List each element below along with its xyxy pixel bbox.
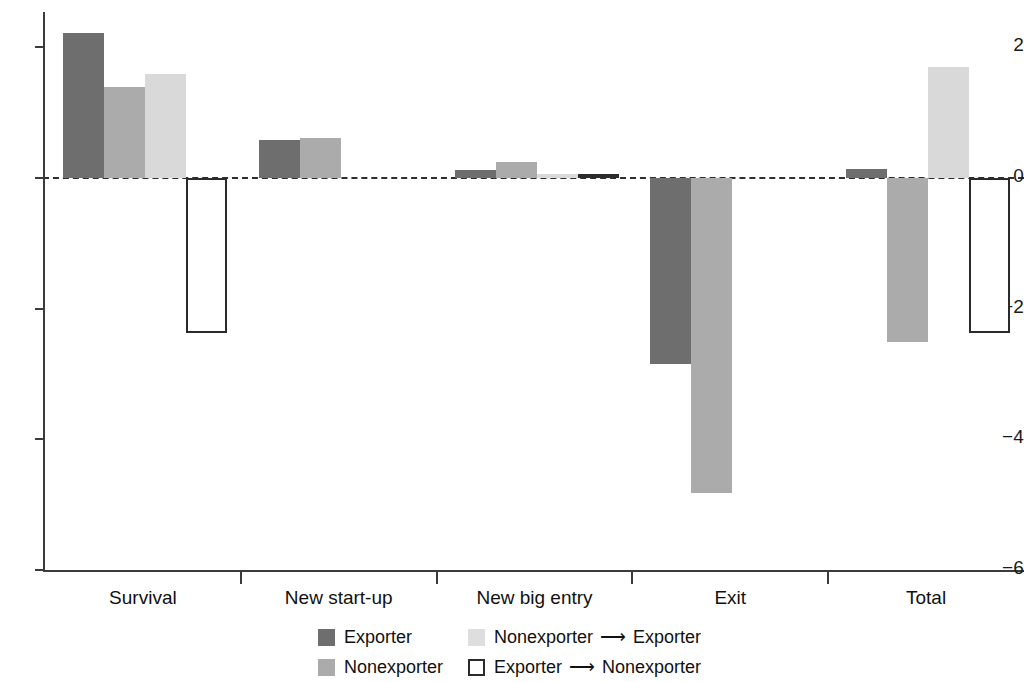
legend-label-exporter-to-nonexporter-right: Nonexporter <box>602 657 701 678</box>
chart-legend: Exporter Nonexporter ⟶ Exporter Nonexpor… <box>318 622 788 682</box>
plot-area: 20−2−4−6 SurvivalNew start-upNew big ent… <box>0 0 1024 682</box>
y-tick-label: −6 <box>990 557 1024 579</box>
legend-label-nonexporter-to-exporter-left: Nonexporter <box>494 627 593 648</box>
legend-swatch-nonexporter-to-exporter-icon <box>468 629 485 646</box>
legend-label-nonexporter-to-exporter-right: Exporter <box>633 627 701 648</box>
legend-swatch-exporter-to-nonexporter-icon <box>468 659 485 676</box>
bar <box>650 178 691 364</box>
bar <box>969 178 1010 333</box>
legend-swatch-exporter-icon <box>318 629 335 646</box>
bar <box>846 169 887 178</box>
legend-swatch-nonexporter-icon <box>318 659 335 676</box>
y-tick-mark <box>35 438 45 440</box>
legend-row-2: Nonexporter Exporter ⟶ Nonexporter <box>318 652 788 682</box>
legend-arrow-icon: ⟶ <box>600 628 626 646</box>
bar <box>104 87 145 178</box>
y-tick-label: −4 <box>990 426 1024 448</box>
category-label: New big entry <box>437 587 633 609</box>
category-label: Exit <box>632 587 828 609</box>
category-separator-tick <box>631 572 633 584</box>
legend-row-1: Exporter Nonexporter ⟶ Exporter <box>318 622 788 652</box>
bar <box>691 178 732 493</box>
bar <box>259 140 300 178</box>
bar <box>63 33 104 178</box>
bar-chart-figure: 20−2−4−6 SurvivalNew start-upNew big ent… <box>0 0 1024 682</box>
bar <box>186 178 227 333</box>
y-tick-label: 2 <box>990 34 1024 56</box>
x-axis-line <box>43 570 1024 572</box>
legend-label-nonexporter: Nonexporter <box>344 657 443 678</box>
category-label: New start-up <box>241 587 437 609</box>
legend-item-exporter: Exporter <box>318 627 468 648</box>
bar <box>578 174 619 178</box>
y-axis-line <box>43 12 45 572</box>
category-separator-tick <box>240 572 242 584</box>
category-separator-tick <box>827 572 829 584</box>
y-tick-mark <box>35 177 45 179</box>
legend-arrow-icon: ⟶ <box>569 658 595 676</box>
bar <box>537 174 578 178</box>
bar <box>928 67 969 178</box>
bar <box>496 162 537 178</box>
y-tick-mark <box>35 569 45 571</box>
category-separator-tick <box>436 572 438 584</box>
legend-label-exporter: Exporter <box>344 627 412 648</box>
y-tick-mark <box>35 308 45 310</box>
y-tick-mark <box>35 46 45 48</box>
legend-item-nonexporter: Nonexporter <box>318 657 468 678</box>
bar <box>145 74 186 178</box>
category-label: Total <box>828 587 1024 609</box>
legend-item-exporter-to-nonexporter: Exporter ⟶ Nonexporter <box>468 657 701 678</box>
bar <box>300 138 341 178</box>
legend-label-exporter-to-nonexporter-left: Exporter <box>494 657 562 678</box>
category-label: Survival <box>45 587 241 609</box>
bar <box>455 170 496 178</box>
bar <box>887 178 928 342</box>
legend-item-nonexporter-to-exporter: Nonexporter ⟶ Exporter <box>468 627 701 648</box>
